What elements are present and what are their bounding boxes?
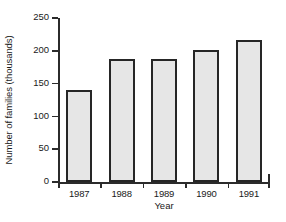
bar [151, 59, 177, 182]
x-axis-label: 1991 [222, 188, 276, 200]
x-axis-title: Year [58, 200, 270, 212]
bar [109, 59, 135, 182]
y-axis-title: Number of families (thousands) [2, 10, 16, 190]
y-axis-tick-label: 100 [33, 110, 49, 121]
plot-area: 050100150200250 19871988198919901991 [58, 18, 270, 182]
y-axis-line [58, 18, 60, 182]
y-axis-tick: 100 [52, 116, 58, 118]
y-axis-tick: 250 [52, 17, 58, 19]
y-axis-tick: 200 [52, 50, 58, 52]
bar [193, 50, 219, 183]
x-axis-line [58, 182, 270, 184]
bar [66, 90, 92, 182]
bar [236, 40, 262, 182]
y-axis-tick-label: 150 [33, 77, 49, 88]
y-axis-tick-label: 0 [44, 175, 49, 186]
bar-chart-figure: Number of families (thousands) 050100150… [0, 0, 286, 222]
y-axis-tick-label: 50 [38, 142, 49, 153]
y-axis-tick-label: 250 [33, 11, 49, 22]
y-axis-tick-label: 200 [33, 44, 49, 55]
y-axis-tick: 150 [52, 83, 58, 85]
y-axis-tick: 50 [52, 148, 58, 150]
